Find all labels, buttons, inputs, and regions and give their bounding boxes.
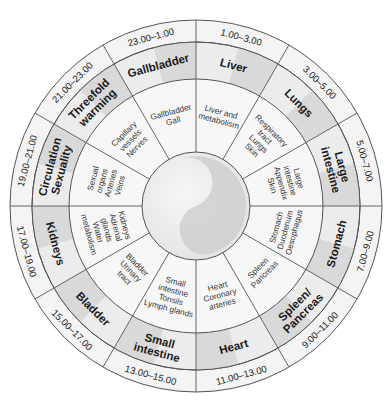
- organ-clock-wheel: 1.00–3.00LiverLiver andmetabolism3.00–5.…: [0, 0, 389, 406]
